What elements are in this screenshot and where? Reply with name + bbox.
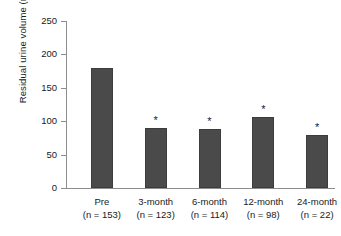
bar-chart-figure: Residual urine volume (ml) 0501001502002… <box>0 0 341 236</box>
y-tick-label: 150 <box>17 83 57 93</box>
y-tick-mark <box>61 54 67 55</box>
x-axis-label: Pre(n = 153) <box>71 196 133 221</box>
bar <box>252 117 274 188</box>
x-axis-line <box>66 188 335 189</box>
significance-asterisk: * <box>306 124 328 130</box>
x-axis-category: 3-month <box>125 196 187 209</box>
bar <box>199 129 221 188</box>
y-tick-label: 0 <box>17 183 57 193</box>
x-axis-label: 24-month(n = 22) <box>286 196 341 221</box>
y-tick-mark <box>61 88 67 89</box>
significance-asterisk: * <box>199 118 221 124</box>
y-tick-mark <box>61 188 67 189</box>
y-axis-line <box>66 21 67 189</box>
y-tick-mark <box>61 155 67 156</box>
x-axis-group-size: (n = 22) <box>286 209 341 222</box>
y-tick-label: 50 <box>17 150 57 160</box>
x-axis-label: 12-month(n = 98) <box>232 196 294 221</box>
bar <box>91 68 113 188</box>
y-tick-mark <box>61 21 67 22</box>
y-tick-label: 100 <box>17 116 57 126</box>
x-axis-group-size: (n = 114) <box>179 209 241 222</box>
y-tick-mark <box>61 121 67 122</box>
x-axis-group-size: (n = 98) <box>232 209 294 222</box>
x-axis-category: Pre <box>71 196 133 209</box>
x-axis-category: 24-month <box>286 196 341 209</box>
bar <box>306 135 328 188</box>
significance-asterisk: * <box>252 106 274 112</box>
y-tick-label: 200 <box>17 49 57 59</box>
bar <box>145 128 167 188</box>
x-axis-group-size: (n = 153) <box>71 209 133 222</box>
x-axis-label: 6-month(n = 114) <box>179 196 241 221</box>
y-tick-label: 250 <box>17 16 57 26</box>
x-axis-category: 12-month <box>232 196 294 209</box>
x-axis-category: 6-month <box>179 196 241 209</box>
significance-asterisk: * <box>145 117 167 123</box>
x-axis-group-size: (n = 123) <box>125 209 187 222</box>
x-axis-label: 3-month(n = 123) <box>125 196 187 221</box>
